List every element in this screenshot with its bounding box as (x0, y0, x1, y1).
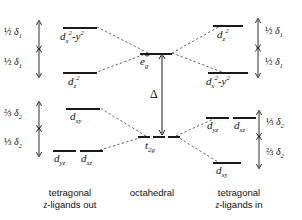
delta-sub: 2 (19, 142, 22, 149)
delta-sub: 1 (19, 32, 22, 39)
right-eg-measure-bar (255, 18, 260, 78)
corr-right-eg-upper (172, 25, 222, 53)
measure-left-eg-lower: ½ δ1 (4, 57, 22, 69)
delta-term: δ2 (14, 136, 22, 147)
corr-left-t2g-upper (100, 108, 146, 136)
delta-sub: 2 (281, 122, 284, 129)
delta-sub: 2 (281, 152, 284, 159)
level-center-t2g-c (168, 136, 180, 138)
orb-sup2: 2 (226, 74, 229, 81)
orb-sub: z (223, 35, 226, 42)
corr-right-eg-lower (172, 53, 222, 72)
fraction: ½ (265, 25, 273, 36)
delta-sub: 2 (19, 113, 22, 120)
delta-sub: 1 (280, 31, 283, 38)
t2g-sub: 2g (148, 146, 155, 153)
corr-right-t2g-lower (176, 136, 218, 162)
measure-left-eg-upper: ½ δ1 (4, 27, 22, 39)
measure-right-t2g-lower: ⅔ δ2 (266, 147, 284, 159)
measure-right-eg-upper: ½ δ1 (265, 26, 283, 38)
caption-left-line1: tetragonal (18, 187, 122, 199)
caption-center-line1: octahedral (118, 187, 186, 199)
orb-sub: xy (222, 171, 228, 178)
orb-sub: z (74, 82, 77, 89)
orb-sub: xz (87, 159, 93, 166)
label-left-dxy: dxy (70, 111, 82, 125)
label-right-dx2y2: dx2-y2 (206, 75, 230, 90)
orb-sub: x (212, 82, 215, 89)
fraction: ½ (265, 56, 273, 67)
right-t2g-measure-bar (256, 110, 261, 169)
delta-term: δ1 (14, 56, 22, 67)
delta-sub: 1 (19, 62, 22, 69)
caption-left-line2: z-ligands out (18, 199, 122, 212)
crystal-field-splitting-diagram: eg* t2g Δ dx2-y2 dz2 dxy dyz dxz dz2 dx2… (0, 0, 302, 220)
fraction: ½ (4, 26, 12, 37)
orb-sub: xy (76, 117, 82, 124)
corr-left-eg-upper (97, 27, 148, 53)
corr-left-t2g-lower (100, 136, 146, 150)
orb-sup2: 2 (80, 29, 83, 36)
level-center-t2g-b (153, 136, 165, 138)
label-left-dyz: dyz (54, 153, 65, 167)
measure-left-t2g-upper: ⅔ δ2 (4, 108, 22, 120)
caption-left-rest: -ligands out (47, 199, 96, 210)
level-center-t2g-a (138, 136, 150, 138)
caption-right-line1: tetragonal (187, 187, 291, 199)
eg-star: * (144, 50, 150, 62)
fraction: ⅔ (266, 146, 274, 157)
delta-sub: 1 (280, 62, 283, 69)
delta-term: δ1 (275, 56, 283, 67)
delta-arrow (159, 54, 165, 135)
measure-left-t2g-lower: ⅓ δ2 (4, 137, 22, 149)
left-t2g-measure-bar (36, 101, 41, 157)
caption-left-column: tetragonal z-ligands out (18, 187, 122, 212)
label-right-dz2: dz2 (217, 28, 229, 43)
label-left-dx2y2: dx2-y2 (60, 30, 84, 45)
label-center-t2g: t2g (145, 140, 155, 154)
orb-sup1: 2 (76, 74, 79, 81)
caption-right-column: tetragonal z-ligands in (187, 187, 291, 212)
label-right-dxz: dxz (234, 120, 245, 134)
delta-term: δ2 (14, 107, 22, 118)
delta-symbol: Δ (150, 87, 158, 101)
fraction: ⅓ (266, 116, 274, 127)
orb-sub: yz (60, 159, 66, 166)
delta-term: δ1 (14, 26, 22, 37)
measure-right-t2g-upper: ⅓ δ2 (266, 117, 284, 129)
left-eg-measure-bar (36, 20, 41, 78)
label-left-dz2: dz2 (68, 75, 80, 90)
fraction: ⅓ (4, 136, 12, 147)
label-right-dxy: dxy (216, 165, 228, 179)
delta-term: δ2 (276, 116, 284, 127)
caption-right-line2: z-ligands in (187, 199, 291, 212)
delta-term: δ1 (275, 25, 283, 36)
fraction: ½ (4, 56, 12, 67)
orb-sub: x (66, 37, 69, 44)
label-left-dxz: dxz (81, 153, 92, 167)
orb-sub: yz (213, 126, 219, 133)
orb-sub: xz (240, 126, 246, 133)
eg-sub: g (145, 62, 148, 69)
orb-sup1: 2 (225, 27, 228, 34)
caption-center-column: octahedral (118, 187, 186, 199)
measure-right-eg-lower: ½ δ1 (265, 57, 283, 69)
delta-term: δ2 (276, 146, 284, 157)
label-right-dyz: dyz (207, 120, 218, 134)
label-delta: Δ (150, 88, 158, 100)
caption-right-rest: -ligands in (219, 199, 262, 210)
fraction: ⅔ (4, 107, 12, 118)
label-center-eg: eg* (140, 56, 154, 70)
